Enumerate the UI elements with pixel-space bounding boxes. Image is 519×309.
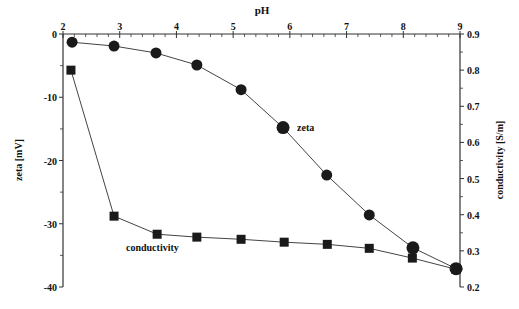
- x-tick-label: 4: [174, 21, 179, 32]
- series: [66, 37, 462, 275]
- zeta-series-label: zeta: [297, 122, 314, 133]
- zeta-marker: [151, 47, 162, 58]
- zeta-marker: [191, 59, 202, 70]
- y2-tick-label: 0.7: [467, 101, 480, 112]
- zeta-marker: [236, 84, 247, 95]
- x-tick-label: 2: [61, 21, 66, 32]
- y-tick-label: -20: [44, 156, 57, 167]
- zeta-marker: [109, 41, 120, 52]
- zeta-marker: [406, 241, 419, 254]
- x-axis-label: pH: [255, 4, 270, 16]
- conductivity-marker: [153, 230, 162, 239]
- y-tick-label: -10: [44, 92, 57, 103]
- y-tick-label: -40: [44, 282, 57, 293]
- conductivity-marker: [365, 244, 374, 253]
- x-tick-label: 6: [287, 21, 292, 32]
- zeta-line: [72, 42, 456, 268]
- conductivity-marker: [408, 254, 417, 263]
- zeta-marker: [277, 121, 290, 134]
- conductivity-marker: [192, 233, 201, 242]
- x-tick-label: 9: [458, 21, 463, 32]
- conductivity-series-label: conductivity: [126, 242, 179, 253]
- y2-tick-label: 0.9: [467, 29, 480, 40]
- conductivity-marker: [237, 235, 246, 244]
- conductivity-marker: [110, 212, 119, 221]
- x-tick-label: 8: [401, 21, 406, 32]
- zeta-marker: [364, 209, 375, 220]
- conductivity-marker: [66, 66, 75, 75]
- zeta-marker: [67, 37, 78, 48]
- y-axis-label: zeta [mV]: [13, 139, 24, 181]
- conductivity-marker: [280, 238, 289, 247]
- y2-tick-label: 0.8: [467, 65, 480, 76]
- y2-tick-label: 0.4: [467, 210, 480, 221]
- y2-axis-label: conductivity [S/m]: [494, 121, 505, 200]
- y-tick-label: -30: [44, 219, 57, 230]
- conductivity-marker: [323, 240, 332, 249]
- x-tick-label: 7: [344, 21, 349, 32]
- zeta-marker: [321, 170, 332, 181]
- y2-tick-label: 0.5: [467, 174, 480, 185]
- y2-tick-label: 0.2: [467, 282, 480, 293]
- y2-tick-label: 0.6: [467, 137, 480, 148]
- conductivity-marker: [452, 265, 461, 274]
- zeta-conductivity-chart: 234567890-10-20-30-400.90.80.70.60.50.40…: [0, 0, 519, 309]
- y2-tick-label: 0.3: [467, 246, 480, 257]
- conductivity-line: [71, 70, 456, 269]
- x-tick-label: 3: [117, 21, 122, 32]
- x-tick-label: 5: [231, 21, 236, 32]
- y-tick-label: 0: [52, 29, 57, 40]
